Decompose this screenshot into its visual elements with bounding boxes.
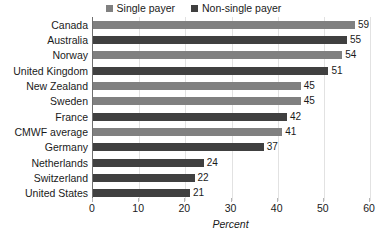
bar [93, 36, 347, 44]
y-axis-label: Australia [0, 32, 88, 47]
y-axis-label: Netherlands [0, 155, 88, 170]
bar [93, 67, 328, 75]
legend-entry-non-single-payer: Non-single payer [191, 3, 281, 14]
bar [93, 21, 355, 29]
bar-chart: Single payer Non-single payer CanadaAust… [0, 0, 387, 241]
bar-row: 41 [93, 124, 369, 139]
bar-value-label: 22 [198, 173, 209, 183]
bar-value-label: 51 [331, 66, 342, 76]
x-tick-label: 20 [178, 202, 190, 214]
y-axis-label: France [0, 109, 88, 124]
bar-row: 42 [93, 109, 369, 124]
x-tick-label: 10 [132, 202, 144, 214]
bar-value-label: 55 [350, 35, 361, 45]
x-tick-label: 50 [317, 202, 329, 214]
bar-value-label: 59 [358, 20, 369, 30]
bar-row: 37 [93, 140, 369, 155]
y-axis-label: CMWF average [0, 124, 88, 139]
legend-label-single-payer: Single payer [117, 3, 175, 14]
bar-row: 55 [93, 32, 369, 47]
bar [93, 97, 301, 105]
bar-value-label: 21 [193, 188, 204, 198]
legend-swatch-single-payer [106, 5, 113, 12]
x-tick-label: 60 [363, 202, 375, 214]
y-axis-label: New Zealand [0, 78, 88, 93]
y-axis-label: Germany [0, 140, 88, 155]
bar-row: 59 [93, 17, 369, 32]
bar-row: 22 [93, 170, 369, 185]
bar [93, 51, 342, 59]
bar-row: 51 [93, 63, 369, 78]
bar [93, 128, 282, 136]
bar-rows: 595554514545424137242221 [93, 17, 369, 201]
bar-row: 45 [93, 78, 369, 93]
y-axis-labels: CanadaAustraliaNorwayUnited KingdomNew Z… [0, 17, 88, 201]
bar [93, 143, 264, 151]
bar [93, 174, 195, 182]
bar-row: 24 [93, 155, 369, 170]
bar-value-label: 54 [345, 50, 356, 60]
bar-row: 54 [93, 48, 369, 63]
y-axis-label: Switzerland [0, 170, 88, 185]
bar [93, 113, 287, 121]
x-axis-title: Percent [92, 218, 369, 230]
x-tick-label: 30 [225, 202, 237, 214]
bar-value-label: 37 [267, 142, 278, 152]
bar [93, 82, 301, 90]
y-axis-label: Norway [0, 48, 88, 63]
bar-value-label: 45 [304, 96, 315, 106]
x-axis-ticks: 0102030405060 [92, 202, 369, 218]
y-axis-label: Sweden [0, 94, 88, 109]
legend-swatch-non-single-payer [191, 5, 198, 12]
y-axis-label: United Kingdom [0, 63, 88, 78]
x-tick-label: 40 [271, 202, 283, 214]
bar-value-label: 45 [304, 81, 315, 91]
bar-value-label: 41 [285, 127, 296, 137]
legend-label-non-single-payer: Non-single payer [202, 3, 281, 14]
y-axis-label: United States [0, 186, 88, 201]
bar-value-label: 42 [290, 112, 301, 122]
y-axis-label: Canada [0, 17, 88, 32]
legend-entry-single-payer: Single payer [106, 3, 175, 14]
bar [93, 159, 204, 167]
chart-legend: Single payer Non-single payer [0, 1, 387, 16]
plot-area: 595554514545424137242221 [92, 17, 369, 201]
gridline [370, 17, 371, 201]
bar-value-label: 24 [207, 158, 218, 168]
bar [93, 189, 190, 197]
bar-row: 45 [93, 94, 369, 109]
x-tick-label: 0 [89, 202, 95, 214]
